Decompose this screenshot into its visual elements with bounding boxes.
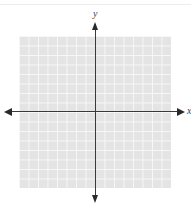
y-axis-label: y xyxy=(93,9,97,19)
y-axis-down-arrow-icon xyxy=(92,195,98,203)
y-axis-line xyxy=(95,24,96,198)
x-axis-left-arrow-icon xyxy=(4,108,12,116)
x-axis-line xyxy=(8,111,179,112)
y-axis-up-arrow-icon xyxy=(92,22,98,30)
x-axis-label: x xyxy=(187,106,191,116)
x-axis-right-arrow-icon xyxy=(177,108,185,116)
cropped-header-rule xyxy=(0,4,191,5)
